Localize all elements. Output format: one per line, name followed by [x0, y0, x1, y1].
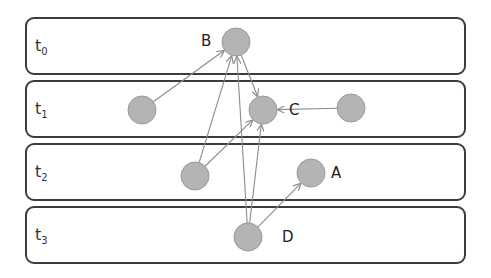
edge-n3-B	[199, 56, 232, 162]
edge-n3-C	[205, 120, 252, 166]
edge-n1-B	[153, 51, 224, 102]
node-label-D: D	[282, 228, 294, 246]
node-label-B: B	[201, 32, 211, 50]
node-label-A: A	[331, 164, 341, 182]
node-n2	[337, 94, 365, 122]
node-n3	[181, 162, 209, 190]
edge-n2-C	[278, 108, 337, 109]
node-C	[249, 96, 277, 124]
node-n1	[128, 96, 156, 124]
edge-B-C	[241, 55, 257, 96]
node-D	[234, 223, 262, 251]
graph-canvas	[0, 0, 491, 278]
edge-D-C	[250, 125, 262, 223]
edge-D-B	[237, 57, 247, 223]
node-B	[222, 28, 250, 56]
node-label-C: C	[289, 101, 299, 119]
node-A	[297, 159, 325, 187]
edges-group	[153, 51, 337, 227]
edge-D-A	[258, 184, 301, 227]
